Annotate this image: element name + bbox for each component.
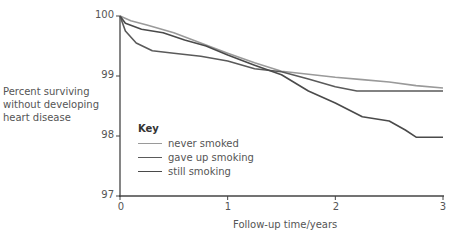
series-lines	[120, 16, 443, 137]
legend-label: never smoked	[168, 138, 239, 149]
x-axis-label: Follow-up time/years	[233, 219, 337, 230]
series-line-still-smoking	[120, 16, 443, 137]
legend-swatch	[138, 143, 162, 144]
x-tick-label: 3	[433, 201, 449, 212]
legend-swatch	[138, 171, 162, 172]
y-tick-label: 97	[84, 189, 114, 200]
y-tick-label: 98	[84, 129, 114, 140]
x-tick-label: 2	[326, 201, 346, 212]
y-axis-label-line: Percent surviving	[3, 85, 113, 98]
survival-chart: Percent surviving without developing hea…	[0, 0, 449, 241]
legend-swatch	[138, 157, 162, 158]
y-tick-label: 99	[84, 69, 114, 80]
legend-item-never-smoked: never smoked	[138, 136, 254, 150]
legend-label: gave up smoking	[168, 152, 254, 163]
y-axis-label-line: without developing	[3, 98, 113, 111]
legend-item-gave-up-smoking: gave up smoking	[138, 150, 254, 164]
legend-item-still-smoking: still smoking	[138, 164, 254, 178]
legend-label: still smoking	[168, 166, 231, 177]
y-axis-label: Percent surviving without developing hea…	[3, 85, 113, 124]
legend: Key never smoked gave up smoking still s…	[138, 123, 254, 178]
x-tick-label: 1	[218, 201, 238, 212]
series-line-gave-up-smoking	[120, 16, 443, 91]
y-axis-label-line: heart disease	[3, 111, 113, 124]
legend-title: Key	[138, 123, 254, 134]
y-tick-label: 100	[84, 9, 114, 20]
x-tick-label: 0	[111, 201, 131, 212]
